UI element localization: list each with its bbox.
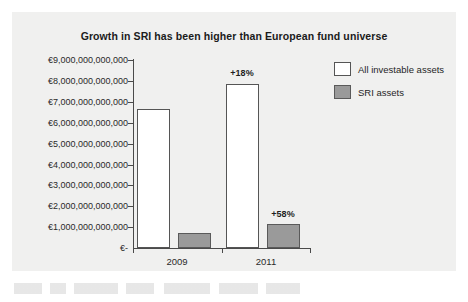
y-tick-label: €2,000,000,000,000 xyxy=(13,201,128,211)
bar-sri-2009[interactable] xyxy=(178,233,211,248)
y-tick-label: €7,000,000,000,000 xyxy=(13,97,128,107)
caption-ghost xyxy=(14,283,344,294)
bar-label-sri-2011: +58% xyxy=(271,209,294,219)
legend-label: All investable assets xyxy=(358,64,444,75)
bar-label-all-investable-2011: +18% xyxy=(230,68,253,78)
x-tick-mark xyxy=(133,248,134,253)
y-tick-label: €1,000,000,000,000 xyxy=(13,222,128,232)
y-tick-label: €9,000,000,000,000 xyxy=(13,55,128,65)
x-tick-label-2009: 2009 xyxy=(142,256,212,267)
y-tick-label: €8,000,000,000,000 xyxy=(13,76,128,86)
y-tick-label: €4,000,000,000,000 xyxy=(13,160,128,170)
chart-title: Growth in SRI has been higher than Europ… xyxy=(12,30,456,42)
x-tick-mark xyxy=(310,248,311,253)
bar-all-investable-2009[interactable] xyxy=(137,109,170,248)
legend-swatch-icon xyxy=(334,62,351,76)
plot-area xyxy=(133,60,310,248)
bar-sri-2011[interactable] xyxy=(267,224,300,248)
bar-all-investable-2011[interactable] xyxy=(226,84,259,248)
y-tick-label: €- xyxy=(13,243,128,253)
y-tick-label: €6,000,000,000,000 xyxy=(13,118,128,128)
chart-legend: All investable assets SRI assets xyxy=(334,62,444,108)
legend-item-sri-assets[interactable]: SRI assets xyxy=(334,85,444,99)
figure-root: Growth in SRI has been higher than Europ… xyxy=(0,0,468,302)
y-tick-label: €5,000,000,000,000 xyxy=(13,139,128,149)
x-tick-mark xyxy=(222,248,223,253)
legend-label: SRI assets xyxy=(358,87,404,98)
y-tick-label: €3,000,000,000,000 xyxy=(13,180,128,190)
legend-item-all-investable-assets[interactable]: All investable assets xyxy=(334,62,444,76)
legend-swatch-icon xyxy=(334,85,351,99)
x-tick-label-2011: 2011 xyxy=(231,256,301,267)
